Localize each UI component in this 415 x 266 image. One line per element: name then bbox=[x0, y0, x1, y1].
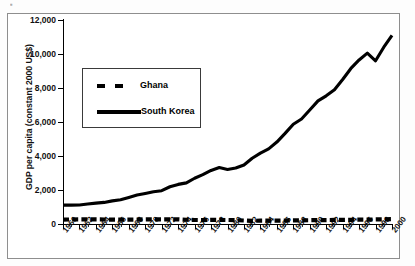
series-ghana bbox=[63, 219, 392, 221]
legend-swatch-south-korea bbox=[97, 110, 141, 114]
legend-entry-south-korea: South Korea bbox=[83, 101, 200, 123]
legend-label-ghana: Ghana bbox=[140, 80, 168, 90]
legend-entry-ghana: Ghana bbox=[83, 75, 200, 97]
chart-legend: Ghana South Korea bbox=[82, 68, 201, 128]
legend-swatch-ghana-dash-2 bbox=[115, 84, 123, 88]
legend-swatch-ghana-dash-1 bbox=[97, 84, 105, 88]
series-lines bbox=[0, 0, 415, 266]
legend-label-south-korea: South Korea bbox=[141, 106, 195, 116]
chart-figure: ▪ GDP per capita (constant 2000 US$) 02,… bbox=[0, 0, 415, 266]
